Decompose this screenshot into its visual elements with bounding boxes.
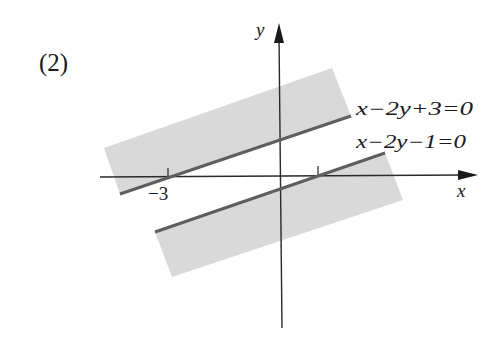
inequality-diagram: (2) y x −3 x−2y+3=0 x−2y−1=0 [0, 0, 498, 352]
x-axis-label: x [456, 180, 466, 201]
y-axis-arrow-icon [274, 23, 284, 43]
tick-label-minus-3: −3 [148, 183, 168, 204]
y-axis-label: y [254, 19, 265, 40]
figure-label: (2) [39, 49, 68, 77]
shaded-region-upper [104, 68, 351, 194]
x-axis-arrow-icon [458, 170, 478, 180]
shaded-region-lower [155, 153, 403, 277]
equation-label-upper: x−2y+3=0 [355, 99, 473, 119]
y-axis [279, 36, 282, 328]
equation-label-lower: x−2y−1=0 [355, 132, 466, 152]
